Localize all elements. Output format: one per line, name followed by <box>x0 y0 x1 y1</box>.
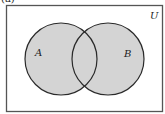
venn-diagram: U A B <box>0 0 165 114</box>
set-b-label: B <box>123 48 131 59</box>
set-a-label: A <box>34 47 42 58</box>
universe-label: U <box>150 10 159 21</box>
